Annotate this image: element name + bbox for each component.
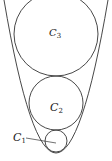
c1-leader-line — [26, 138, 56, 143]
label-c2: C2 — [50, 101, 63, 115]
parabola-circles-diagram: C3 C2 C1 — [0, 0, 112, 161]
diagram-canvas: C3 C2 C1 — [0, 0, 112, 161]
label-c1: C1 — [13, 131, 26, 145]
label-c3: C3 — [49, 27, 61, 40]
circle-c1 — [45, 130, 67, 152]
